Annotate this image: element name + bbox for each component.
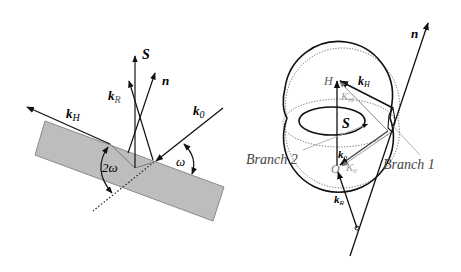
crystal-slab [35,121,224,221]
label-kR: kR [108,88,121,105]
label-branch1: Branch 1 [383,157,435,172]
label-kH: kH [358,74,371,89]
n-vector [350,23,428,256]
label-K0: K0 [345,161,357,175]
branch2-leader [303,124,368,150]
label-KH: KH [340,90,354,104]
label-n: n [162,73,169,88]
label-kH: kH [66,106,81,123]
inner-solid-ellipse [299,107,365,135]
label-O: O [331,162,340,176]
k0-vector [156,108,223,161]
label-two-omega: 2ω [102,160,118,175]
label-n: n [411,26,418,41]
label-omega: ω [176,154,185,169]
label-k0: k0 [338,148,348,162]
label-S: S [342,116,350,131]
label-kR: kR [334,193,345,207]
label-H: H [323,74,334,88]
kR-vector [129,81,153,160]
k0-vector [340,131,388,165]
n-vector [128,73,155,153]
label-branch2: Branch 2 [246,152,298,167]
right-diagram: n H O S kH KH k0 K0 kR Branch 2 Branch 1 [246,23,435,256]
left-diagram: S n kR kH k0 2ω ω [27,47,224,221]
omega-arc [184,144,194,174]
label-S: S [142,47,150,62]
label-k0: k0 [193,103,205,120]
branch1-leader [393,126,420,155]
diffraction-diagram: S n kR kH k0 2ω ω [0,0,461,272]
